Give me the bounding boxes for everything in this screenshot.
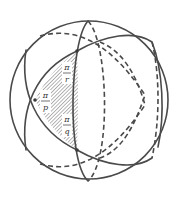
angle-label-top: π r — [62, 62, 72, 84]
angle-label-bottom: π q — [62, 114, 72, 137]
vertex-bottom — [75, 148, 79, 152]
vertex-left — [33, 98, 37, 102]
angle-label-bottom-denominator: q — [64, 127, 69, 136]
angle-label-bottom-numerator: π — [63, 115, 70, 124]
angle-label-left: π p — [40, 90, 51, 113]
vertex-top — [75, 49, 79, 53]
angle-label-left-numerator: π — [42, 91, 49, 100]
spherical-triangle-diagram: π r π p π q — [0, 0, 179, 201]
angle-label-left-denominator: p — [43, 103, 48, 112]
angle-label-top-numerator: π — [63, 63, 70, 72]
